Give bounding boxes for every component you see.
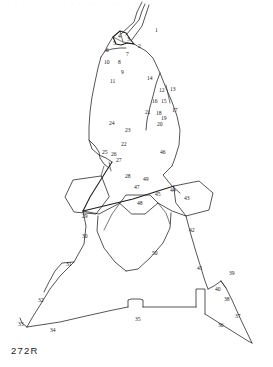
scar-label-23: 23 (125, 128, 131, 134)
stroke-body-outline-right (134, 44, 180, 166)
stroke-big-diagonal-left (83, 162, 112, 211)
scar-label-47: 47 (134, 185, 140, 191)
figure-root: · · · · · · · · ·· · ·· ·· ·· ·· ·· ··· … (0, 0, 273, 367)
scar-label-38: 38 (224, 297, 230, 303)
scar-label-45: 45 (155, 192, 161, 198)
scar-label-41: 41 (197, 266, 203, 272)
scar-label-37: 37 (235, 314, 241, 320)
stroke-lower-blade-right (126, 213, 171, 271)
scar-label-15: 15 (161, 99, 167, 105)
scar-label-48: 48 (137, 201, 143, 207)
scar-label-28: 28 (125, 174, 131, 180)
stroke-ridge-left-down (83, 203, 120, 214)
scar-label-14: 14 (147, 76, 153, 82)
scar-label-50: 50 (152, 251, 158, 257)
stroke-tip-blade-inner (131, 5, 149, 41)
scar-label-3: 3 (127, 37, 130, 43)
scar-label-4: 4 (118, 34, 121, 40)
scar-label-27: 27 (116, 158, 122, 164)
stroke-right-pentagon (174, 181, 213, 216)
scar-label-32: 32 (38, 298, 44, 304)
stroke-left-pentagon (65, 176, 109, 214)
scar-label-12: 12 (159, 88, 165, 94)
scar-label-24: 24 (109, 121, 115, 127)
scar-label-34: 34 (50, 328, 56, 334)
scar-label-9: 9 (121, 70, 124, 76)
scar-label-21: 21 (145, 110, 151, 116)
scar-label-5: 5 (113, 41, 116, 47)
scar-label-20: 20 (157, 122, 163, 128)
scar-label-10: 10 (104, 60, 110, 66)
stroke-right-tail-39-edge (221, 281, 226, 288)
scar-label-35: 35 (135, 317, 141, 323)
scar-label-49: 49 (143, 177, 149, 183)
scar-label-30: 30 (82, 234, 88, 240)
stroke-tip-arrow-notch (113, 31, 134, 45)
scar-label-31: 31 (66, 262, 72, 268)
scar-label-39: 39 (229, 271, 235, 277)
scar-label-25: 25 (102, 150, 108, 156)
scar-label-46: 46 (160, 150, 166, 156)
scar-label-42: 42 (189, 228, 195, 234)
scar-label-29: 29 (82, 214, 88, 220)
scar-label-2: 2 (138, 44, 141, 50)
scar-label-13: 13 (170, 87, 176, 93)
stroke-base-line-left (27, 307, 128, 327)
scar-label-43: 43 (184, 196, 190, 202)
scar-label-44: 44 (170, 188, 176, 194)
plate-caption: 272R (11, 345, 39, 356)
stroke-body-outline-left (89, 57, 112, 162)
scar-label-33: 33 (18, 322, 24, 328)
stroke-tip-blade-right-long-b (126, 4, 145, 35)
scar-label-16: 16 (152, 99, 158, 105)
stroke-base-step-right (196, 289, 205, 314)
stroke-base-notch (128, 299, 143, 307)
stroke-ridge-right-down (158, 203, 186, 216)
stroke-big-diagonal-to-center (83, 186, 174, 211)
scar-label-17: 17 (172, 108, 178, 114)
scar-label-7: 7 (126, 52, 129, 58)
stroke-lower-blade-left (97, 216, 126, 271)
scar-label-6: 6 (106, 48, 109, 54)
scar-label-8: 8 (118, 60, 121, 66)
scar-label-40: 40 (215, 287, 221, 293)
scar-label-22: 22 (121, 142, 127, 148)
scar-label-36: 36 (218, 323, 224, 329)
scar-label-1: 1 (155, 28, 158, 34)
scar-label-11: 11 (110, 79, 115, 85)
